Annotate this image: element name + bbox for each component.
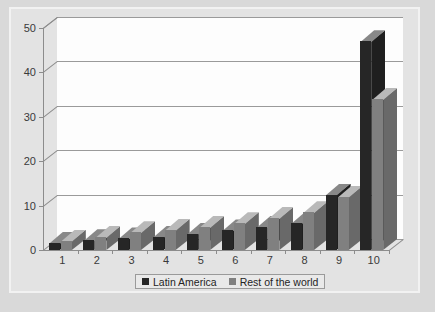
bar-face (130, 232, 141, 250)
gridline (57, 61, 403, 62)
y-axis-tick-label: 30 (0, 111, 36, 123)
bar-rest-of-world-3 (130, 232, 141, 250)
gridline-riser (43, 150, 58, 162)
y-axis-tick-label: 50 (0, 22, 36, 34)
bar-face (234, 223, 245, 250)
legend-label: Rest of the world (240, 276, 319, 288)
y-axis-line (43, 28, 44, 250)
bar-face (372, 99, 383, 250)
bar-latin-america-6 (222, 230, 233, 250)
bar-face (256, 227, 267, 250)
x-axis-tick-mark (389, 250, 390, 254)
x-axis-tick-mark (320, 250, 321, 254)
gridline (57, 106, 403, 107)
x-axis-tick-mark (251, 250, 252, 254)
bar-chart: 01020304050 12345678910 Latin America Re… (0, 0, 435, 312)
x-axis-tick-label: 7 (267, 254, 273, 266)
gridline-riser (43, 195, 58, 207)
x-axis-tick-mark (181, 250, 182, 254)
bar-latin-america-2 (83, 240, 94, 250)
gridline (57, 17, 403, 18)
bar-latin-america-10 (360, 41, 371, 250)
bar-face (338, 197, 349, 250)
bar-face (83, 240, 94, 250)
x-axis-tick-label: 4 (163, 254, 169, 266)
bar-latin-america-5 (187, 234, 198, 250)
bar-face (153, 237, 164, 250)
y-axis-tick-label: 0 (0, 244, 36, 256)
gridline (57, 150, 403, 151)
y-axis-tick-label: 20 (0, 155, 36, 167)
bar-face (95, 237, 106, 250)
bar-rest-of-world-2 (95, 237, 106, 250)
bar-face (165, 230, 176, 250)
bar-face (199, 227, 210, 250)
bar-face (326, 195, 337, 251)
bar-face (118, 238, 129, 250)
y-axis-top-edge (43, 17, 58, 29)
bar-side (383, 88, 397, 250)
bar-face (268, 218, 279, 250)
bar-rest-of-world-6 (234, 223, 245, 250)
x-axis-tick-label: 5 (198, 254, 204, 266)
bar-rest-of-world-5 (199, 227, 210, 250)
bar-face (303, 212, 314, 250)
bar-latin-america-4 (153, 237, 164, 250)
bar-rest-of-world-8 (303, 212, 314, 250)
plot-area (43, 17, 403, 250)
bar-rest-of-world-4 (165, 230, 176, 250)
bar-face (291, 223, 302, 250)
bar-latin-america-9 (326, 195, 337, 251)
legend-swatch-icon (229, 278, 236, 285)
legend-item-rest-of-the-world: Rest of the world (229, 276, 319, 288)
x-axis-tick-mark (285, 250, 286, 254)
bar-latin-america-7 (256, 227, 267, 250)
bar-rest-of-world-7 (268, 218, 279, 250)
x-axis-tick-mark (216, 250, 217, 254)
legend-item-latin-america: Latin America (142, 276, 217, 288)
x-axis-tick-mark (354, 250, 355, 254)
bar-latin-america-8 (291, 223, 302, 250)
bar-latin-america-3 (118, 238, 129, 250)
bar-face (61, 241, 72, 250)
legend-swatch-icon (142, 278, 149, 285)
x-axis-tick-mark (147, 250, 148, 254)
x-axis-tick-mark (78, 250, 79, 254)
x-axis-tick-label: 2 (94, 254, 100, 266)
x-axis-tick-label: 1 (59, 254, 65, 266)
bar-face (49, 243, 60, 250)
bar-rest-of-world-10 (372, 99, 383, 250)
x-axis-tick-label: 3 (128, 254, 134, 266)
y-axis-tick-label: 10 (0, 200, 36, 212)
y-axis-tick-label: 40 (0, 66, 36, 78)
gridline-riser (43, 106, 58, 118)
bar-rest-of-world-1 (61, 241, 72, 250)
bar-face (222, 230, 233, 250)
x-axis-tick-label: 6 (232, 254, 238, 266)
x-axis-tick-label: 9 (336, 254, 342, 266)
gridline-riser (43, 61, 58, 73)
legend-label: Latin America (153, 276, 217, 288)
chart-screenshot: 01020304050 12345678910 Latin America Re… (0, 0, 435, 312)
x-axis-tick-mark (112, 250, 113, 254)
bar-latin-america-1 (49, 243, 60, 250)
bar-rest-of-world-9 (338, 197, 349, 250)
bar-face (360, 41, 371, 250)
x-axis-tick-label: 10 (368, 254, 380, 266)
bar-face (187, 234, 198, 250)
chart-legend: Latin America Rest of the world (135, 274, 325, 289)
x-axis-tick-label: 8 (301, 254, 307, 266)
